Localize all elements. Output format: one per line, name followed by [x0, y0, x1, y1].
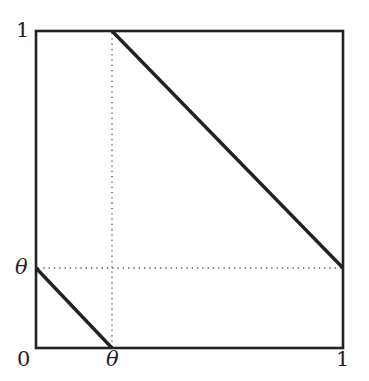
x-axis-label-theta: θ — [106, 349, 119, 370]
lower-diagonal-segment — [36, 268, 112, 348]
y-axis-label-one: 1 — [16, 20, 29, 41]
diagram-canvas — [0, 0, 369, 381]
y-axis-label-theta: θ — [15, 257, 28, 278]
x-axis-label-one: 1 — [336, 349, 349, 370]
unit-square-frame — [36, 31, 343, 348]
upper-diagonal-segment — [112, 31, 343, 268]
origin-label: 0 — [17, 349, 30, 370]
